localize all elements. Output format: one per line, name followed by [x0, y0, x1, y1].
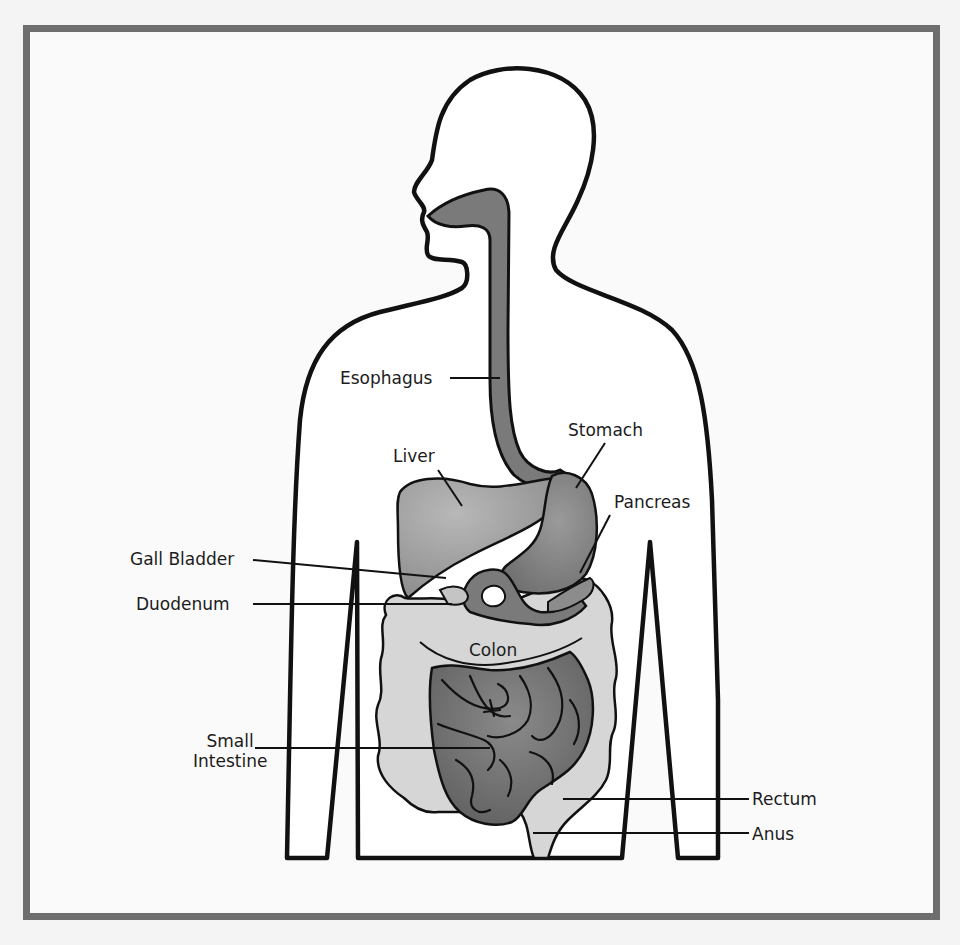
label-anus: Anus: [752, 824, 794, 844]
label-small-intestine: Small Intestine: [193, 731, 267, 771]
label-pancreas: Pancreas: [614, 492, 690, 512]
duodenum-loop-gap: [482, 586, 505, 607]
label-small-intestine-line2: Intestine: [193, 751, 267, 771]
label-stomach: Stomach: [568, 420, 643, 440]
label-duodenum: Duodenum: [136, 594, 230, 614]
label-colon: Colon: [469, 640, 517, 660]
label-liver: Liver: [393, 446, 435, 466]
label-small-intestine-line1: Small: [193, 731, 267, 751]
label-gall-bladder: Gall Bladder: [130, 549, 234, 569]
label-rectum: Rectum: [752, 789, 817, 809]
label-esophagus: Esophagus: [340, 368, 432, 388]
